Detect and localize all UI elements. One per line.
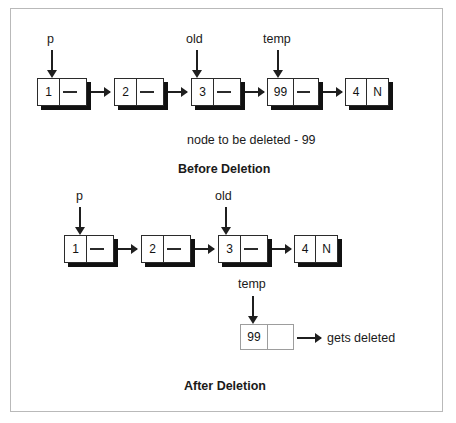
connector-arrow-1-to-2-before: [91, 91, 110, 93]
note-node-to-be-deleted: node to be deleted - 99: [187, 134, 316, 147]
connector-arrow-99-to-4-before: [323, 91, 342, 93]
node-value: 1: [65, 236, 87, 262]
pointer-label-old-after: old: [215, 190, 232, 203]
node-link-cell: [241, 236, 267, 262]
link-stub-icon: [167, 248, 181, 250]
connector-arrow-2-to-3-before: [168, 91, 187, 93]
node-value: 99: [241, 325, 268, 349]
node-value: 4: [295, 236, 316, 262]
link-stub-icon: [63, 91, 77, 93]
node-link-cell: [268, 325, 293, 349]
node-link-cell: [214, 79, 240, 105]
connector-arrow-detached-to-note: [297, 337, 321, 339]
node-before-99: 99: [267, 78, 319, 106]
pointer-label-p-after: p: [76, 190, 83, 203]
node-value: 2: [115, 79, 137, 105]
connector-arrow-3-to-4-after: [272, 248, 291, 250]
node-null-marker: N: [367, 79, 388, 105]
connector-arrow-1-to-2-after: [118, 248, 137, 250]
section-label-before-deletion: Before Deletion: [178, 163, 270, 176]
node-after-3: 3: [218, 235, 268, 263]
node-before-4-terminal: 4 N: [345, 78, 389, 106]
node-null-marker: N: [316, 236, 337, 262]
pointer-label-temp-before: temp: [263, 33, 291, 46]
connector-arrow-2-to-3-after: [195, 248, 214, 250]
node-before-1: 1: [37, 78, 87, 106]
node-detached-99: 99: [240, 324, 294, 350]
node-after-4-terminal: 4 N: [294, 235, 338, 263]
section-label-after-deletion: After Deletion: [184, 380, 266, 393]
link-stub-icon: [90, 248, 104, 250]
node-after-1: 1: [64, 235, 114, 263]
linked-list-deletion-figure: p old temp 1 2 3: [0, 0, 456, 423]
pointer-arrow-temp-before: [277, 50, 279, 71]
pointer-label-old-before: old: [186, 33, 203, 46]
node-value: 3: [219, 236, 241, 262]
pointer-label-temp-after: temp: [238, 278, 266, 291]
pointer-arrow-temp-after: [252, 296, 254, 317]
node-value: 3: [192, 79, 214, 105]
link-stub-icon: [140, 91, 154, 93]
node-link-cell: [164, 236, 190, 262]
pointer-arrow-p-after: [79, 207, 81, 228]
link-stub-icon: [244, 248, 258, 250]
node-link-cell: [294, 79, 318, 105]
pointer-arrow-old-after: [225, 207, 227, 228]
pointer-label-p-before: p: [47, 33, 54, 46]
pointer-arrow-old-before: [196, 50, 198, 71]
connector-arrow-3-to-99-before: [245, 91, 264, 93]
node-value: 4: [346, 79, 367, 105]
node-link-cell: [87, 236, 113, 262]
link-stub-icon: [297, 91, 310, 93]
node-before-2: 2: [114, 78, 164, 106]
node-value: 1: [38, 79, 60, 105]
node-value: 99: [268, 79, 294, 105]
note-gets-deleted: gets deleted: [327, 332, 395, 345]
node-before-3: 3: [191, 78, 241, 106]
node-link-cell: [60, 79, 86, 105]
node-link-cell: [137, 79, 163, 105]
node-value: 2: [142, 236, 164, 262]
link-stub-icon: [217, 91, 231, 93]
pointer-arrow-p-before: [51, 50, 53, 71]
node-after-2: 2: [141, 235, 191, 263]
